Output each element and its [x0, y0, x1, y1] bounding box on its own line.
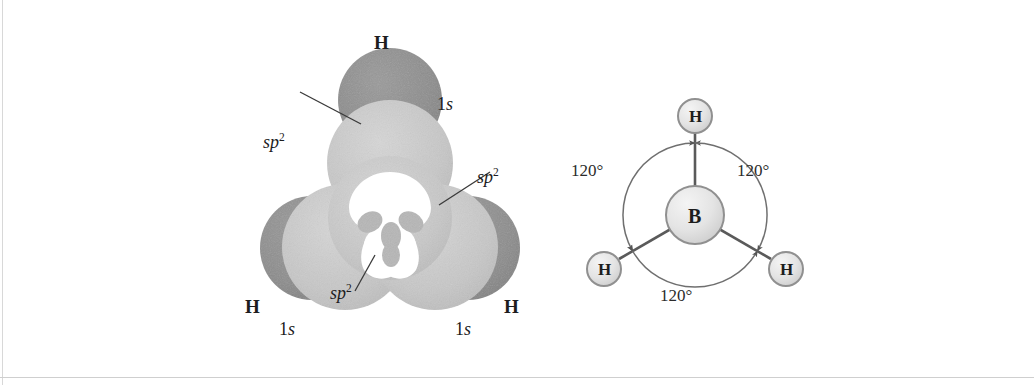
figure-page: H 1s H 1s H 1s sp2 sp2 sp2	[0, 0, 1034, 385]
label-angle-bottom: 120°	[660, 287, 692, 304]
label-angle-upper-left: 120°	[571, 162, 603, 179]
label-atom-hydrogen-right: H	[780, 261, 793, 278]
back-lobe-bottom-b	[382, 243, 400, 267]
label-h-left: H	[245, 297, 260, 316]
page-left-rule	[2, 0, 3, 385]
label-atom-hydrogen-top: H	[689, 108, 702, 125]
label-angle-upper-right: 120°	[737, 162, 769, 179]
label-sp2-upper-left: sp2	[263, 132, 285, 151]
label-h-right: H	[504, 297, 519, 316]
label-1s-top: 1s	[437, 95, 453, 113]
label-atom-boron: B	[688, 206, 701, 226]
arc-angle-bottom	[633, 251, 758, 287]
label-atom-hydrogen-left: H	[598, 261, 611, 278]
geometry-svg	[545, 0, 845, 385]
geometry-panel: B H H H 120° 120° 120°	[545, 0, 845, 385]
orbital-overlap-svg	[215, 0, 565, 385]
label-1s-right: 1s	[455, 320, 471, 338]
orbital-overlap-panel: H 1s H 1s H 1s sp2 sp2 sp2	[215, 0, 565, 385]
label-1s-left: 1s	[279, 320, 295, 338]
label-sp2-right: sp2	[477, 167, 499, 186]
label-h-top: H	[374, 33, 389, 52]
label-sp2-bottom: sp2	[330, 283, 352, 302]
